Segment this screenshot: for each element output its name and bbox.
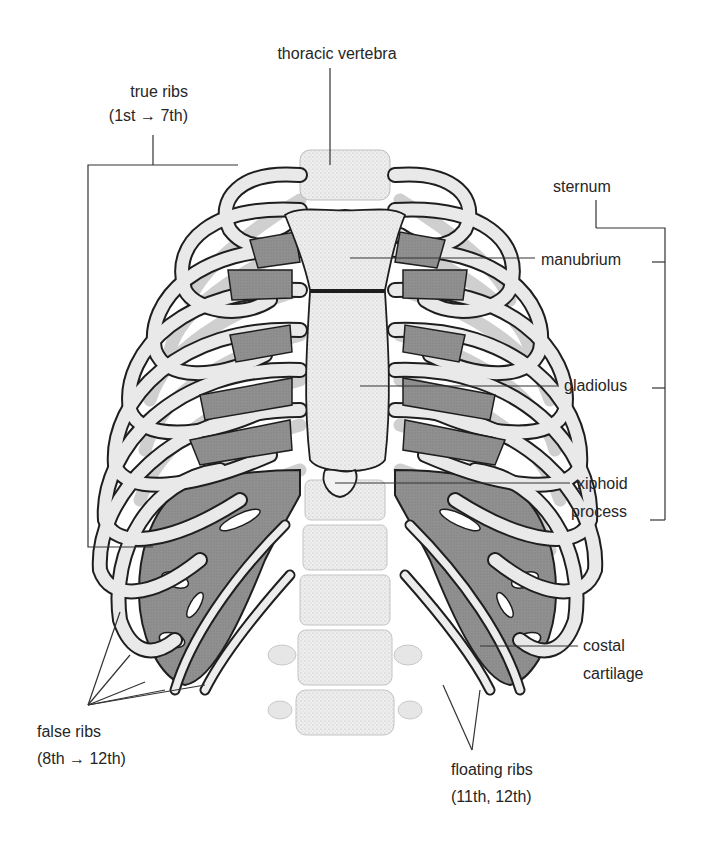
sternum (285, 209, 405, 497)
label-manubrium: manubrium (541, 250, 621, 270)
manubrium (285, 209, 405, 290)
label-gladiolus: gladiolus (564, 376, 627, 396)
label-true-ribs: true ribs (70, 82, 188, 102)
label-false-ribs: false ribs (37, 722, 101, 742)
label-true-ribs-range: (1st → 7th) (70, 106, 188, 126)
label-xiphoid: xiphoid (577, 474, 628, 494)
label-floating-ribs-range: (11th, 12th) (451, 787, 532, 807)
label-costal: costal (583, 636, 625, 656)
label-floating-ribs: floating ribs (451, 760, 533, 780)
rib-cage-diagram: thoracic vertebra true ribs (1st → 7th) … (0, 0, 701, 842)
rib-cage-illustration (0, 0, 701, 842)
label-costal-cartilage: cartilage (583, 664, 643, 684)
label-sternum: sternum (553, 177, 611, 197)
label-xiphoid-process: process (571, 502, 627, 522)
label-thoracic-vertebra: thoracic vertebra (262, 44, 412, 64)
gladiolus (306, 292, 389, 471)
label-false-ribs-range: (8th → 12th) (37, 749, 126, 769)
